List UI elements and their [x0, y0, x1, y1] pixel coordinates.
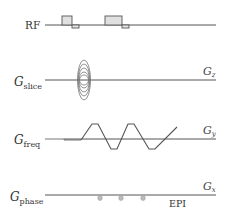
axis-y-g: G [203, 124, 212, 137]
epi-label: EPI [169, 199, 186, 209]
slice-label-g: G [14, 75, 24, 89]
freq-label-g: G [14, 133, 24, 147]
axis-x-sub: x [212, 186, 216, 194]
axis-z-sub: z [212, 71, 216, 79]
axis-label-y: Gy [203, 125, 216, 138]
phase-row [45, 195, 216, 201]
rf-pulse-90 [62, 16, 79, 28]
rf-pulse-180 [105, 16, 129, 28]
axis-y-sub: y [212, 130, 216, 138]
phase-label-sub: phase [20, 197, 44, 206]
rf-label: RF [25, 20, 40, 31]
phase-blip-1 [98, 196, 103, 201]
freq-label-sub: freq [24, 140, 41, 149]
freq-row [45, 124, 216, 149]
axis-z-g: G [203, 65, 212, 78]
slice-label-sub: slice [24, 82, 42, 91]
phase-blips [98, 196, 146, 201]
pulse-sequence-diagram: RF Gslice Gfreq Gphase Gz Gy Gx EPI [0, 0, 235, 214]
axis-label-x: Gx [203, 181, 216, 194]
rf-label-text: RF [25, 19, 40, 31]
readout-waveform [81, 124, 177, 149]
phase-label: Gphase [10, 188, 43, 206]
axis-label-z: Gz [203, 66, 216, 79]
slice-row [45, 60, 216, 100]
sequence-svg [0, 0, 235, 214]
freq-label: Gfreq [14, 131, 40, 149]
phase-blip-2 [119, 196, 124, 201]
axis-x-g: G [203, 180, 212, 193]
phase-blip-3 [141, 196, 146, 201]
phase-label-g: G [10, 190, 20, 204]
slice-label: Gslice [14, 73, 42, 91]
rf-row [45, 16, 216, 28]
